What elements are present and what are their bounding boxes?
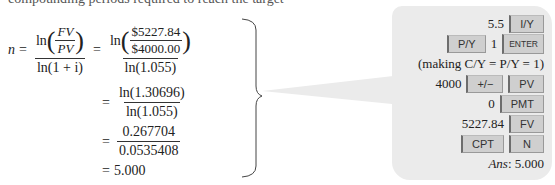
key-iy[interactable]: I/Y — [509, 15, 544, 33]
equation-step-2: = ln(1.30696)ln(1.055) — [98, 85, 190, 120]
variable-n: n — [8, 42, 15, 58]
answer-line: Ans: 5.000 — [418, 154, 544, 174]
key-pmt[interactable]: PMT — [500, 95, 544, 113]
key-enter[interactable]: ENTER — [502, 34, 544, 54]
right-brace-icon — [240, 18, 264, 178]
substituted-fraction: ln( $5227.84$4000.00) ln(1.055) — [108, 24, 193, 76]
key-pv[interactable]: PV — [508, 75, 544, 93]
equation-step-3: = 0.2677040.0535408 — [98, 124, 183, 159]
key-n[interactable]: N — [509, 135, 544, 153]
formula-fraction: ln( FVPV) ln(1 + i) — [34, 24, 86, 76]
keystroke-row: 5.5 I/Y — [418, 14, 544, 34]
key-py[interactable]: P/Y — [447, 35, 486, 53]
keystroke-row: 4000 +/− PV — [418, 74, 544, 94]
key-cpt[interactable]: CPT — [461, 135, 504, 153]
keystroke-note: (making C/Y = P/Y = 1) — [418, 54, 544, 74]
keystroke-row: CPT N — [418, 134, 544, 154]
keystroke-row: 0 PMT — [418, 94, 544, 114]
calculator-keystrokes-panel: 5.5 I/Y P/Y 1 ENTER (making C/Y = P/Y = … — [392, 6, 552, 180]
keystroke-row: P/Y 1 ENTER — [418, 34, 544, 54]
key-plus-minus[interactable]: +/− — [466, 75, 503, 93]
callout-pointer — [262, 75, 402, 105]
equation-block: n = ln( FVPV) ln(1 + i) = ln( $5227.84$4… — [0, 0, 240, 185]
keystroke-row: 5227.84 FV — [418, 114, 544, 134]
key-fv[interactable]: FV — [509, 115, 544, 133]
equation-step-1: n = ln( FVPV) ln(1 + i) = ln( $5227.84$4… — [8, 24, 196, 76]
equation-result: = 5.000 — [98, 163, 145, 179]
